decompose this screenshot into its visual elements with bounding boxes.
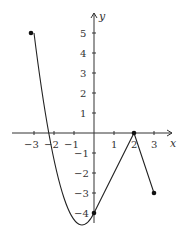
marked-points [29,31,157,216]
svg-text:3: 3 [80,68,86,79]
y-tick-labels: 5 4 3 2 1 −1 −2 −3 −4 [74,28,89,219]
svg-text:−2: −2 [74,168,89,179]
function-graph: −3 −2 −1 1 2 3 5 4 3 2 1 −1 −2 −3 −4 x y [0,0,187,238]
x-axis-label: x [170,137,177,150]
svg-text:−3: −3 [24,139,39,150]
svg-text:−2: −2 [44,139,59,150]
svg-text:1: 1 [111,139,117,150]
svg-text:2: 2 [80,88,86,99]
svg-text:−4: −4 [74,208,89,219]
svg-text:3: 3 [151,139,157,150]
svg-text:4: 4 [80,48,86,59]
svg-text:5: 5 [80,28,86,39]
y-axis-label: y [98,10,106,23]
svg-text:1: 1 [80,108,86,119]
svg-text:−3: −3 [74,188,89,199]
svg-text:2: 2 [131,139,137,150]
svg-text:−1: −1 [74,148,89,159]
x-tick-labels: −3 −2 −1 1 2 3 [24,139,157,150]
